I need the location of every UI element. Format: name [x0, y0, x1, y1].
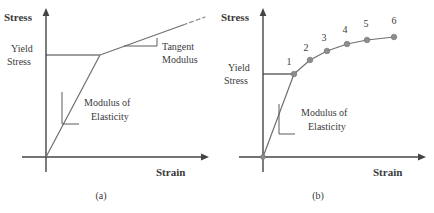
panel-a-y-axis-title: Stress — [4, 11, 33, 23]
panel-b-point-label-6: 6 — [392, 15, 397, 26]
panel-b-y-axis-arrowhead — [260, 8, 267, 16]
panel-b-marker-origin — [261, 155, 266, 160]
panel-b-plot: 1 2 3 4 5 6 Stress Strain Yield Stress M… — [217, 0, 434, 213]
panel-b-elastic-label-line1: Modulus of — [301, 107, 348, 118]
panel-b-marker-1 — [291, 71, 297, 77]
panel-a-elastic-label-line2: Elasticity — [91, 111, 129, 122]
panel-a-tangent-label-line2: Modulus — [162, 54, 198, 65]
panel-b-point-label-4: 4 — [343, 24, 348, 35]
panel-a-yield-label-line1: Yield — [11, 43, 33, 54]
panel-a-tangent-label-line1: Tangent — [162, 41, 194, 52]
panel-b-marker-2 — [307, 57, 313, 63]
panel-a-elastic-slope-triangle — [62, 92, 79, 124]
stress-strain-figure: Stress Strain Yield Stress Modulus of El… — [0, 0, 434, 213]
panel-b-x-axis-arrowhead — [418, 154, 426, 161]
panel-b-marker-4 — [344, 41, 350, 47]
panel-a-plot: Stress Strain Yield Stress Modulus of El… — [0, 0, 217, 213]
panel-a-yield-label-line2: Stress — [7, 56, 31, 67]
panel-b-point-label-3: 3 — [322, 32, 327, 43]
panel-b-y-axis-title: Stress — [221, 11, 250, 23]
panel-a-caption: (a) — [95, 190, 106, 202]
panel-b-point-label-2: 2 — [304, 42, 309, 53]
panel-a-x-axis-title: Strain — [156, 166, 185, 178]
panel-a-x-axis-arrowhead — [201, 154, 209, 161]
panel-a-curve-dashed-extension — [183, 17, 205, 25]
panel-b-point-label-1: 1 — [287, 56, 292, 67]
panel-a-y-axis-arrowhead — [43, 8, 50, 16]
panel-a: Stress Strain Yield Stress Modulus of El… — [0, 0, 217, 213]
panel-b-yield-label-line2: Stress — [224, 75, 248, 86]
panel-b-x-axis-title: Strain — [373, 166, 402, 178]
panel-b-curve — [263, 37, 394, 157]
panel-b-elastic-label-line2: Elasticity — [308, 121, 346, 132]
panel-b-caption: (b) — [312, 190, 324, 202]
panel-b-marker-5 — [364, 37, 370, 43]
panel-b-yield-label-line1: Yield — [228, 62, 250, 73]
panel-b-marker-6 — [391, 34, 397, 40]
panel-b: 1 2 3 4 5 6 Stress Strain Yield Stress M… — [217, 0, 434, 213]
panel-b-marker-3 — [324, 48, 330, 54]
panel-a-elastic-label-line1: Modulus of — [84, 97, 131, 108]
panel-b-point-label-5: 5 — [364, 18, 369, 29]
